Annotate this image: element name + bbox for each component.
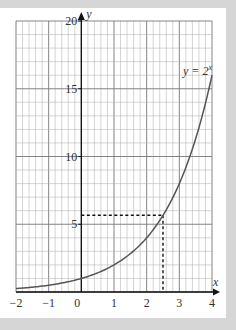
curve-label: y = 2x	[182, 63, 212, 78]
x-axis-label: x	[212, 275, 219, 289]
x-axis-arrow-icon	[213, 289, 220, 296]
y-tick-label: 5	[71, 217, 77, 231]
y-axis-label: y	[85, 7, 92, 21]
x-tick-label: 0	[74, 296, 80, 310]
x-tick-label: 2	[144, 296, 150, 310]
x-tick-label: 3	[176, 296, 182, 310]
y-tick-label: 15	[65, 82, 77, 96]
x-tick-label: −1	[42, 296, 55, 310]
x-tick-label: 4	[209, 296, 215, 310]
x-tick-label: −2	[10, 296, 23, 310]
x-tick-label: 1	[111, 296, 117, 310]
y-tick-label: 10	[65, 150, 77, 164]
y-axis-arrow-icon	[78, 12, 85, 20]
y-tick-label: 20	[65, 14, 77, 28]
exponential-graph: yx−2−1012345101520y = 2x	[0, 0, 236, 330]
grid	[16, 21, 212, 292]
